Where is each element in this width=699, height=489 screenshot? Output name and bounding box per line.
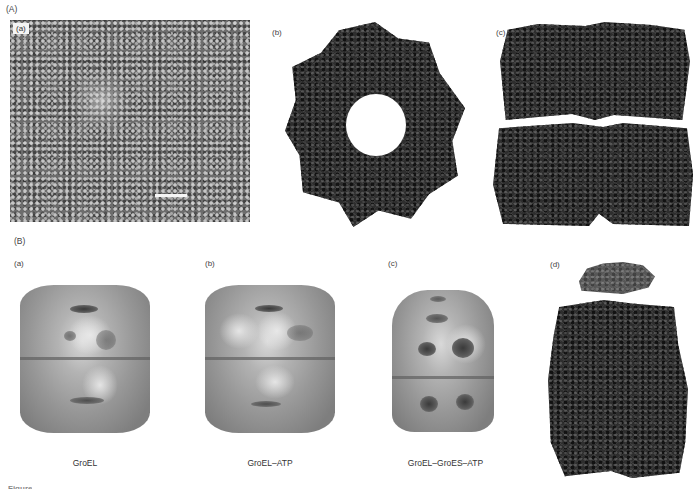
groes-window [426, 314, 448, 323]
caption-groel-atp: GroEL–ATP [200, 458, 340, 468]
groes-top-opening [430, 296, 446, 302]
side-window [96, 330, 116, 350]
panel-b-label: (b) [272, 28, 282, 37]
equatorial-groove [392, 376, 494, 379]
panel-bc-label: (c) [388, 259, 397, 268]
surface-highlight [219, 313, 259, 349]
scale-bar [155, 194, 187, 197]
side-window [452, 338, 474, 358]
groes-cap-structure [575, 262, 655, 294]
lower-window [456, 394, 474, 410]
panel-a-label: (a) [13, 23, 29, 34]
figure-caption-fragment: Figure [8, 482, 32, 489]
caption-groel: GroEL [20, 458, 150, 468]
central-cavity [346, 94, 406, 156]
bottom-window [251, 401, 281, 407]
lower-window [420, 396, 438, 412]
groel-surface-rendering [20, 285, 150, 433]
caption-groel-groes-atp: GroEL–GroES–ATP [378, 458, 513, 468]
groel-atp-surface-rendering [205, 285, 335, 433]
bottom-window [70, 397, 104, 404]
equatorial-groove [205, 357, 335, 360]
section-a-label: (A) [6, 4, 17, 14]
panel-ba-label: (a) [14, 259, 24, 268]
side-view-upper-ring [500, 22, 690, 120]
electron-micrograph-panel: (a) [10, 20, 250, 222]
side-window [418, 342, 436, 356]
equatorial-groove [20, 357, 150, 360]
side-window [64, 331, 76, 341]
side-view-lower-ring [493, 123, 693, 226]
top-opening [70, 305, 98, 313]
section-b-label: (B) [14, 236, 25, 246]
groel-groes-atp-surface-rendering [392, 290, 494, 432]
panel-bb-label: (b) [205, 259, 215, 268]
surface-highlight [255, 365, 295, 399]
panel-c-label: (c) [496, 28, 505, 37]
panel-bd-label: (d) [550, 260, 560, 269]
groel-groes-ribbon-structure [548, 300, 688, 478]
side-window [287, 325, 313, 341]
